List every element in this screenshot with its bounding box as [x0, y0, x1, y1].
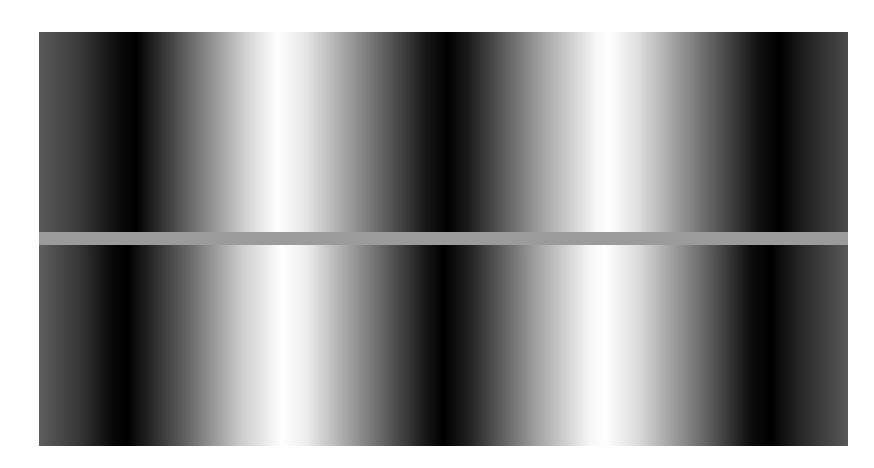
- bottom-gradient-strip: [39, 245, 848, 446]
- grey-separator-band: [39, 232, 848, 245]
- top-gradient-strip: [39, 32, 848, 232]
- grating-figure: [39, 32, 848, 446]
